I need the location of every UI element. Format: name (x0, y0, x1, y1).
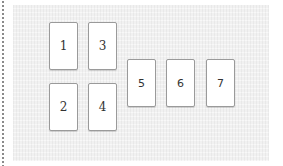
card-3[interactable]: 3 (88, 22, 117, 70)
card-label: 1 (60, 39, 68, 53)
card-5[interactable]: 5 (127, 59, 156, 107)
card-label: 2 (60, 100, 68, 114)
card-label: 3 (99, 39, 107, 53)
card-7[interactable]: 7 (206, 59, 235, 107)
card-1[interactable]: 1 (49, 22, 78, 70)
card-label: 5 (138, 77, 145, 90)
card-label: 6 (177, 77, 184, 90)
dotted-edge (1, 0, 5, 166)
card-label: 7 (217, 77, 224, 90)
card-label: 4 (99, 100, 107, 114)
card-4[interactable]: 4 (88, 83, 117, 131)
card-2[interactable]: 2 (49, 83, 78, 131)
card-6[interactable]: 6 (166, 59, 195, 107)
